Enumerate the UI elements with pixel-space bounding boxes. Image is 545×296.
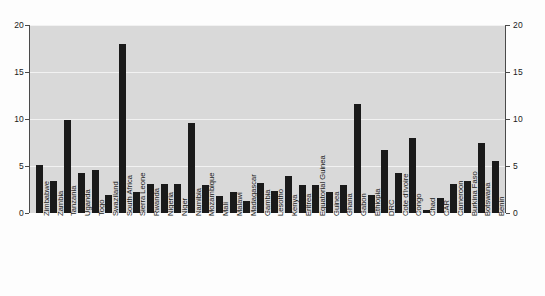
y-axis-right-tick (506, 119, 510, 120)
category-label: South Africa (126, 175, 134, 216)
category-label-slot: Rwanda (143, 216, 157, 294)
category-label-text: Zimbabwe (43, 181, 51, 216)
category-label-text: Namibia (195, 188, 203, 216)
category-label-slot: Mali (212, 216, 226, 294)
category-label-slot: Chad (419, 216, 433, 294)
category-label-slot: Botswana (475, 216, 489, 294)
category-label: Gambia (264, 189, 272, 216)
category-label: Ethiopia (374, 189, 382, 216)
bar-slot (185, 25, 199, 213)
category-label-slot: Equatorial Guinea (309, 216, 323, 294)
category-label-text: Malawi (236, 192, 244, 216)
category-label-slot: Ghana (337, 216, 351, 294)
category-label: Chad (429, 198, 437, 216)
category-label: Congo (416, 194, 424, 216)
category-label-text: Mali (222, 202, 230, 216)
bar-slot (157, 25, 171, 213)
y-axis-left-line (29, 25, 30, 213)
category-label: Benin (498, 197, 506, 216)
category-label-text: Benin (498, 197, 506, 216)
category-label-text: Nigeria (167, 192, 175, 216)
y-axis-left-tick-label: 20 (14, 21, 24, 30)
category-label-text: Eritrea (305, 194, 313, 216)
y-axis-left-tick-label: 10 (14, 115, 24, 124)
bars-container (30, 25, 505, 213)
category-label-slot: Lesotho (268, 216, 282, 294)
category-label-slot: South Africa (116, 216, 130, 294)
category-label-text: Uganda (84, 189, 92, 216)
category-label-slot: Mozambique (199, 216, 213, 294)
category-label: Zambia (57, 191, 65, 216)
category-label: Sierra Leone (140, 173, 148, 216)
category-label-slot: Congo (406, 216, 420, 294)
category-label-text: Botswana (485, 183, 493, 216)
category-label: Nigeria (167, 192, 175, 216)
category-label: Guinea (333, 192, 341, 217)
category-label: CAR (443, 200, 451, 216)
category-label-text: Equatorial Guinea (319, 155, 327, 216)
category-label-text: Ghana (347, 193, 355, 216)
category-label-slot: Eritrea (295, 216, 309, 294)
category-label-slot: Madagascar (240, 216, 254, 294)
bar-slot (171, 25, 185, 213)
bar-slot (364, 25, 378, 213)
bar-slot (226, 25, 240, 213)
category-label-text: Togo (98, 200, 106, 216)
category-label: Mozambique (209, 173, 217, 216)
category-label-text: Lesotho (278, 189, 286, 216)
category-label-slot: Uganda (74, 216, 88, 294)
y-axis-left-tick (25, 166, 29, 167)
category-label-slot: Namibia (185, 216, 199, 294)
category-label-text: Zambia (57, 191, 65, 216)
category-label: DRC (388, 200, 396, 216)
category-label-text: Swaziland (112, 181, 120, 216)
y-axis-right-tick-label: 5 (513, 162, 518, 171)
category-label: Uganda (84, 189, 92, 216)
category-label-text: Cameroon (457, 181, 465, 216)
category-label: Kenya (291, 194, 299, 216)
bar-slot (88, 25, 102, 213)
category-label-text: Kenya (291, 194, 299, 216)
bar-slot (378, 25, 392, 213)
category-label: Lesotho (278, 189, 286, 216)
category-axis-labels: ZimbabweZambiaTanzaniaUgandaTogoSwazilan… (30, 216, 505, 294)
category-label-text: Sierra Leone (140, 173, 148, 216)
y-axis-right-tick (506, 72, 510, 73)
category-label: Equatorial Guinea (319, 155, 327, 216)
category-label: Burkina Faso (471, 171, 479, 216)
category-label: Cote d'Ivoire (402, 174, 410, 216)
y-axis-right-tick-label: 10 (513, 115, 523, 124)
category-label-text: Madagascar (250, 174, 258, 216)
y-axis-left-tick-label: 0 (19, 209, 24, 218)
category-label-slot: CAR (433, 216, 447, 294)
category-label-slot: Benin (488, 216, 502, 294)
y-axis-right-tick (506, 213, 510, 214)
category-label-text: Tanzania (71, 186, 79, 216)
category-label-text: Mozambique (209, 173, 217, 216)
y-axis-right-tick (506, 166, 510, 167)
category-label-text: Burkina Faso (471, 171, 479, 216)
category-label-slot: Gabon (350, 216, 364, 294)
category-label: Swaziland (112, 181, 120, 216)
category-label: Niger (181, 198, 189, 216)
category-label-slot: Zimbabwe (33, 216, 47, 294)
category-label-text: Gambia (264, 189, 272, 216)
y-axis-left-tick-label: 15 (14, 68, 24, 77)
category-label: Tanzania (71, 186, 79, 216)
category-label-slot: Sierra Leone (130, 216, 144, 294)
category-label-slot: Cote d'Ivoire (392, 216, 406, 294)
category-label-text: Cote d'Ivoire (402, 174, 410, 216)
category-label-slot: Togo (88, 216, 102, 294)
category-label-slot: Kenya (281, 216, 295, 294)
category-label-slot: Guinea (323, 216, 337, 294)
bar-slot (268, 25, 282, 213)
category-label: Madagascar (250, 174, 258, 216)
category-label-slot: Cameroon (447, 216, 461, 294)
category-label-slot: Burkina Faso (461, 216, 475, 294)
category-label-text: Guinea (333, 192, 341, 217)
bar-slot (350, 25, 364, 213)
category-label: Eritrea (305, 194, 313, 216)
category-label-text: Gabon (360, 193, 368, 216)
y-axis-right-tick-label: 20 (513, 21, 523, 30)
category-label-text: Rwanda (153, 188, 161, 216)
